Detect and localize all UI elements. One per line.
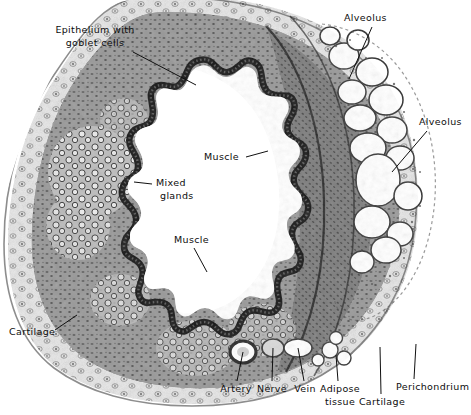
label-mixed-glands: Mixed glands [156, 177, 194, 202]
leader-artery [237, 352, 243, 381]
leader-muscle-upper [246, 151, 268, 157]
leader-muscle-lower [194, 248, 207, 272]
label-muscle-lower: Muscle [174, 234, 209, 246]
label-cartilage-left: Cartilage [9, 326, 55, 338]
label-muscle-upper: Muscle [204, 151, 239, 163]
leader-perichondrium [414, 344, 416, 379]
leader-adipose [336, 355, 338, 381]
leader-nerve [272, 348, 273, 381]
leader-mixed-glands [134, 182, 152, 184]
label-perichondrium: Perichondrium [396, 381, 469, 393]
leader-cartilage-bottom [380, 347, 381, 394]
label-epithelium: Epithelium with goblet cells [36, 24, 154, 49]
leader-vein [298, 348, 304, 381]
leader-lines [0, 0, 471, 415]
leader-epithelium [133, 52, 196, 85]
label-alveolus-right: Alveolus [419, 116, 462, 128]
leader-cartilage-left [55, 315, 77, 330]
leader-alveolus-right [392, 131, 427, 172]
label-cartilage-bottom: Cartilage [356, 396, 408, 408]
histology-figure: Epithelium with goblet cells Alveolus Al… [0, 0, 471, 415]
label-artery: Artery [216, 383, 256, 395]
leader-alveolus-top [349, 27, 372, 79]
label-nerve: Nerve [252, 383, 292, 395]
label-alveolus-top: Alveolus [344, 12, 387, 24]
